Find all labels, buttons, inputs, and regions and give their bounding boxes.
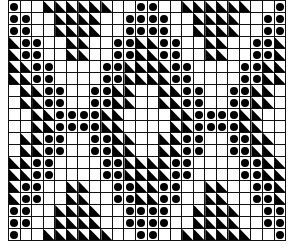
dot-stitch-icon — [136, 13, 148, 25]
dot-stitch-icon — [136, 217, 148, 229]
empty-cell — [55, 37, 67, 49]
empty-cell — [78, 169, 90, 181]
empty-cell — [275, 85, 287, 97]
empty-cell — [90, 169, 102, 181]
empty-cell — [182, 193, 194, 205]
dot-stitch-icon — [228, 85, 240, 97]
dot-stitch-icon — [251, 49, 263, 61]
dot-stitch-icon — [55, 85, 67, 97]
empty-cell — [228, 73, 240, 85]
dot-stitch-icon — [101, 157, 113, 169]
empty-cell — [171, 13, 183, 25]
triangle-stitch-icon — [205, 229, 217, 241]
empty-cell — [182, 217, 194, 229]
empty-cell — [171, 25, 183, 37]
dot-stitch-icon — [44, 169, 56, 181]
triangle-stitch-icon — [148, 61, 160, 73]
empty-cell — [101, 37, 113, 49]
triangle-stitch-icon — [9, 49, 21, 61]
triangle-stitch-icon — [159, 145, 171, 157]
triangle-stitch-icon — [67, 37, 79, 49]
empty-cell — [21, 1, 33, 13]
empty-cell — [194, 49, 206, 61]
dot-stitch-icon — [124, 193, 136, 205]
empty-cell — [136, 145, 148, 157]
triangle-stitch-icon — [124, 97, 136, 109]
empty-cell — [171, 217, 183, 229]
dot-stitch-icon — [21, 205, 33, 217]
empty-cell — [263, 1, 275, 13]
triangle-stitch-icon — [55, 13, 67, 25]
dot-stitch-icon — [251, 193, 263, 205]
triangle-stitch-icon — [171, 121, 183, 133]
triangle-stitch-icon — [21, 85, 33, 97]
triangle-stitch-icon — [240, 121, 252, 133]
empty-cell — [101, 193, 113, 205]
triangle-stitch-icon — [90, 1, 102, 13]
empty-cell — [205, 85, 217, 97]
triangle-stitch-icon — [55, 25, 67, 37]
empty-cell — [263, 121, 275, 133]
empty-cell — [194, 181, 206, 193]
triangle-stitch-icon — [136, 169, 148, 181]
triangle-stitch-icon — [32, 109, 44, 121]
triangle-stitch-icon — [78, 13, 90, 25]
empty-cell — [101, 13, 113, 25]
dot-stitch-icon — [113, 193, 125, 205]
dot-stitch-icon — [9, 205, 21, 217]
triangle-stitch-icon — [78, 181, 90, 193]
triangle-stitch-icon — [251, 85, 263, 97]
empty-cell — [275, 121, 287, 133]
dot-stitch-icon — [159, 217, 171, 229]
triangle-stitch-icon — [205, 49, 217, 61]
dot-stitch-icon — [182, 133, 194, 145]
empty-cell — [171, 205, 183, 217]
triangle-stitch-icon — [182, 229, 194, 241]
triangle-stitch-icon — [159, 73, 171, 85]
triangle-stitch-icon — [182, 1, 194, 13]
dot-stitch-icon — [159, 25, 171, 37]
triangle-stitch-icon — [32, 85, 44, 97]
dot-stitch-icon — [148, 229, 160, 241]
dot-stitch-icon — [101, 145, 113, 157]
triangle-stitch-icon — [171, 85, 183, 97]
empty-cell — [113, 13, 125, 25]
triangle-stitch-icon — [205, 37, 217, 49]
triangle-stitch-icon — [9, 193, 21, 205]
dot-stitch-icon — [159, 49, 171, 61]
dot-stitch-icon — [263, 13, 275, 25]
triangle-stitch-icon — [251, 109, 263, 121]
dot-stitch-icon — [182, 145, 194, 157]
triangle-stitch-icon — [32, 133, 44, 145]
dot-stitch-icon — [275, 25, 287, 37]
empty-cell — [32, 205, 44, 217]
triangle-stitch-icon — [113, 97, 125, 109]
triangle-stitch-icon — [240, 1, 252, 13]
triangle-stitch-icon — [136, 193, 148, 205]
empty-cell — [9, 109, 21, 121]
triangle-stitch-icon — [21, 145, 33, 157]
empty-cell — [240, 13, 252, 25]
empty-cell — [159, 229, 171, 241]
empty-cell — [113, 205, 125, 217]
dot-stitch-icon — [136, 229, 148, 241]
triangle-stitch-icon — [205, 205, 217, 217]
triangle-stitch-icon — [124, 133, 136, 145]
triangle-stitch-icon — [275, 181, 287, 193]
dot-stitch-icon — [32, 181, 44, 193]
dot-stitch-icon — [90, 97, 102, 109]
dot-stitch-icon — [148, 217, 160, 229]
dot-stitch-icon — [194, 133, 206, 145]
empty-cell — [182, 49, 194, 61]
triangle-stitch-icon — [148, 73, 160, 85]
triangle-stitch-icon — [78, 37, 90, 49]
dot-stitch-icon — [101, 61, 113, 73]
empty-cell — [67, 73, 79, 85]
triangle-stitch-icon — [217, 181, 229, 193]
empty-cell — [263, 229, 275, 241]
empty-cell — [205, 133, 217, 145]
empty-cell — [228, 37, 240, 49]
empty-cell — [55, 157, 67, 169]
triangle-stitch-icon — [182, 109, 194, 121]
triangle-stitch-icon — [263, 157, 275, 169]
